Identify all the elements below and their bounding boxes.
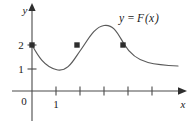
plot-canvas: y x 0 1 2 1 y = F ( x ) (0, 0, 195, 128)
origin-label: 0 (21, 95, 27, 107)
curve-label-y: y (118, 12, 125, 25)
curve-label-paren-close: ) (154, 12, 159, 25)
marked-points-group (29, 42, 125, 47)
marked-point-2 (120, 42, 125, 47)
y-tick-label-2: 2 (18, 39, 24, 51)
curve-label-function: F (136, 12, 145, 24)
marked-point-0 (29, 42, 34, 47)
y-tick-label-1: 1 (18, 63, 24, 75)
y-axis-arrow-icon (28, 3, 35, 11)
marked-point-1 (74, 42, 79, 47)
figure-graph-of-F: y x 0 1 2 1 y = F ( x ) (0, 0, 195, 128)
x-axis-label: x (180, 98, 186, 110)
x-tick-label-1: 1 (53, 98, 59, 110)
axes-group (12, 3, 187, 121)
y-axis-label: y (22, 4, 28, 16)
x-axis-arrow-icon (178, 87, 187, 94)
curve-equation-label: y = F ( x ) (118, 12, 159, 25)
curve-label-variable: x (148, 12, 155, 24)
curve-label-equals: = (127, 12, 135, 24)
function-curve (32, 25, 178, 70)
